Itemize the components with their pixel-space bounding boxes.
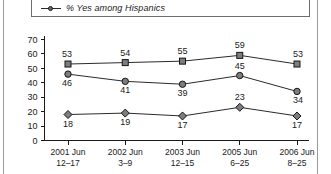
data-value-label: 17 [292,120,302,130]
data-value-label: 53 [293,49,303,59]
diamond-data-marker [293,112,301,120]
x-tick-label-year: 2005 Jun [222,147,257,157]
square-data-marker [294,61,300,67]
y-tick-label: 50 [27,64,37,74]
x-tick-label-year: 2001 Jun [51,147,86,157]
square-data-marker [237,52,243,58]
square-data-marker [65,61,71,67]
data-value-label: 59 [235,40,245,50]
circle-data-marker [179,81,185,87]
y-tick-label: 60 [27,49,37,59]
x-tick-label-days: 8–25 [288,158,307,168]
x-tick-label-days: 12–17 [56,158,80,168]
x-tick-label-days: 6–25 [230,158,249,168]
y-tick-label: 0 [32,136,37,146]
diamond-data-marker [179,112,187,120]
x-tick-label-days: 3–9 [118,158,132,168]
data-value-label: 55 [177,46,187,56]
data-value-label: 41 [120,85,130,95]
line-chart: 010203040506070 535455595346413945341819… [0,0,331,174]
diamond-data-marker [121,109,129,117]
x-tick-label-year: 2003 Jun [165,147,200,157]
y-tick-label: 70 [27,35,37,45]
y-axis: 010203040506070 [27,35,44,146]
data-value-label: 53 [62,49,72,59]
data-value-label: 34 [293,95,303,105]
x-tick-label-year: 2006 Jun [280,147,315,157]
y-tick-label: 40 [27,78,37,88]
square-data-marker [180,58,186,64]
circle-data-marker [294,88,300,94]
x-tick-label-layer: 2001 Jun12–172002 Jun3–92003 Jun12–15200… [51,147,315,168]
data-value-label: 19 [120,117,130,127]
x-axis [45,141,310,145]
square-data-marker [122,60,128,66]
data-value-label: 18 [63,119,73,129]
data-value-label: 17 [177,120,187,130]
circle-data-marker [65,71,71,77]
data-value-label: 46 [62,78,72,88]
y-tick-label: 10 [27,121,37,131]
chart-canvas: 010203040506070 535455595346413945341819… [0,0,331,174]
y-tick-label: 30 [27,92,37,102]
diamond-data-marker [64,111,72,119]
data-value-label: 39 [177,88,187,98]
circle-data-marker [122,78,128,84]
x-tick-label-year: 2002 Jun [108,147,143,157]
data-value-label: 45 [235,61,245,71]
data-value-label: 54 [120,48,130,58]
circle-data-marker [237,72,243,78]
series-layer [64,52,301,120]
data-value-label: 23 [235,92,245,102]
y-tick-label: 20 [27,107,37,117]
x-tick-label-days: 12–15 [171,158,195,168]
diamond-data-marker [236,103,244,111]
